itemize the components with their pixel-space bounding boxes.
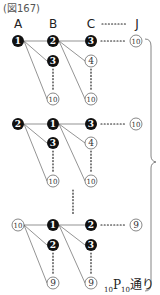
node-j-0: 10 xyxy=(130,35,142,47)
svg-text:3: 3 xyxy=(88,36,94,46)
svg-text:10: 10 xyxy=(49,178,58,186)
svg-text:9: 9 xyxy=(50,278,56,288)
svg-text:3: 3 xyxy=(88,119,94,129)
svg-text:1: 1 xyxy=(50,119,56,129)
svg-text:10: 10 xyxy=(132,38,141,46)
result-suffix: 通り xyxy=(130,278,154,292)
node-c-2-1: 3 xyxy=(85,239,97,251)
node-b-0-2: 10 xyxy=(47,93,59,105)
node-b-0-0: 2 xyxy=(47,35,59,47)
svg-text:1: 1 xyxy=(15,36,21,46)
svg-text:2: 2 xyxy=(15,119,21,129)
result-r: 10 xyxy=(121,286,130,294)
node-b-1-2: 10 xyxy=(47,175,59,187)
node-c-1-2: 10 xyxy=(85,175,97,187)
node-root-0: 1 xyxy=(12,35,24,47)
svg-text:3: 3 xyxy=(50,56,56,66)
svg-text:4: 4 xyxy=(88,138,94,148)
svg-text:10: 10 xyxy=(87,178,96,186)
svg-text:10: 10 xyxy=(132,121,141,129)
node-c-0-2: 10 xyxy=(85,93,97,105)
svg-text:3: 3 xyxy=(88,240,94,250)
svg-text:10: 10 xyxy=(87,96,96,104)
node-c-0-0: 3 xyxy=(85,35,97,47)
node-c-2-0: 2 xyxy=(85,219,97,231)
node-c-1-1: 4 xyxy=(85,137,97,149)
right-brace xyxy=(145,39,156,291)
result-n: 10 xyxy=(104,286,113,294)
tree-diagram: 1231034101021310341010101292399 xyxy=(0,0,160,295)
node-j-2: 9 xyxy=(130,219,142,231)
svg-text:1: 1 xyxy=(50,220,56,230)
node-c-2-2: 9 xyxy=(85,277,97,289)
node-root-2: 10 xyxy=(12,219,24,231)
svg-text:10: 10 xyxy=(14,222,23,230)
node-c-0-1: 4 xyxy=(85,55,97,67)
node-b-1-1: 3 xyxy=(47,137,59,149)
node-root-1: 2 xyxy=(12,118,24,130)
svg-text:10: 10 xyxy=(49,96,58,104)
node-b-2-0: 1 xyxy=(47,219,59,231)
svg-text:2: 2 xyxy=(50,36,56,46)
node-b-1-0: 1 xyxy=(47,118,59,130)
node-c-1-0: 3 xyxy=(85,118,97,130)
svg-text:9: 9 xyxy=(133,220,139,230)
svg-text:2: 2 xyxy=(88,220,94,230)
node-b-2-2: 9 xyxy=(47,277,59,289)
node-b-2-1: 2 xyxy=(47,239,59,251)
node-j-1: 10 xyxy=(130,118,142,130)
result-p: P xyxy=(113,278,121,292)
svg-text:4: 4 xyxy=(88,56,94,66)
svg-text:2: 2 xyxy=(50,240,56,250)
svg-text:3: 3 xyxy=(50,138,56,148)
node-b-0-1: 3 xyxy=(47,55,59,67)
svg-text:9: 9 xyxy=(88,278,94,288)
result-label: 10P10通り xyxy=(104,275,154,294)
